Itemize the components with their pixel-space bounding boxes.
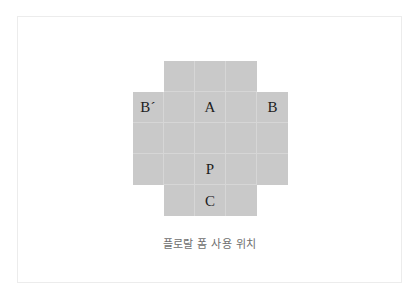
grid-cell-label: P [195,162,225,177]
grid-cell-B: B [257,92,288,123]
grid-cell [164,61,195,92]
grid-cell [195,61,226,92]
grid-cell [164,123,195,154]
grid-cell [226,61,257,92]
grid-cell-empty [133,185,164,216]
grid-cell [164,154,195,185]
grid-cell-B-prime: B´ [133,92,164,123]
diagram-caption: 플로랄 폼 사용 위치 [18,237,401,253]
grid-cell-C: C [195,185,226,216]
grid-cell [226,123,257,154]
grid-cell-empty [257,61,288,92]
grid-cell-empty [257,185,288,216]
grid-cell [226,154,257,185]
grid-cell-label: C [195,193,225,208]
grid-cell [133,154,164,185]
grid-cell [133,123,164,154]
grid-cell [164,92,195,123]
grid-cell [257,123,288,154]
grid-cell-label: A [195,100,225,115]
grid-cell-A: A [195,92,226,123]
grid-cell [226,185,257,216]
grid-cell-label: B´ [133,100,163,115]
grid-cell [226,92,257,123]
grid-cell [257,154,288,185]
floral-foam-placement-grid: B´ABPC [133,61,288,216]
grid-cell [195,123,226,154]
diagram-card: B´ABPC 플로랄 폼 사용 위치 [17,16,402,283]
grid-cell-empty [133,61,164,92]
grid-cell [164,185,195,216]
grid-cell-label: B [257,100,288,115]
grid-cell-P: P [195,154,226,185]
